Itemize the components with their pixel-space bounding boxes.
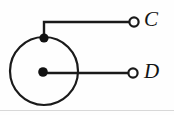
terminal-d-label: D	[144, 61, 159, 82]
center-node	[38, 67, 48, 77]
wire-to-c	[44, 22, 129, 38]
terminal-c	[129, 17, 138, 26]
terminal-d	[128, 68, 137, 77]
terminal-c-label: C	[144, 9, 158, 30]
figure-container: C D	[0, 0, 174, 115]
top-junction-node	[39, 33, 48, 42]
